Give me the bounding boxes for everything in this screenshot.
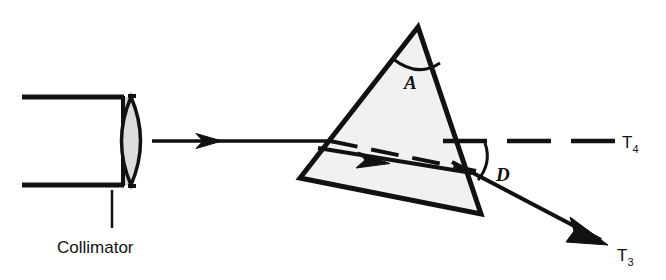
prism-body	[300, 27, 481, 214]
ray-t4-letter: T	[622, 133, 632, 152]
ray-t4-label: T4	[622, 133, 639, 155]
collimator-group: Collimator	[22, 96, 141, 257]
ray-labels-group: T4 T3	[617, 133, 639, 268]
prism-group: A	[300, 27, 481, 214]
emergent-ray-arrowhead	[566, 217, 608, 245]
prism-spectrometer-figure: Collimator A D	[0, 0, 666, 280]
apex-angle-label: A	[403, 72, 417, 93]
deviation-angle-label: D	[495, 164, 510, 185]
ray-t3-letter: T	[617, 246, 627, 265]
ray-t3-label: T3	[617, 246, 634, 268]
collimator-label: Collimator	[57, 238, 134, 257]
diagram-canvas: Collimator A D	[0, 0, 666, 280]
ray-t3-subscript: 3	[627, 256, 633, 268]
collimator-lens-icon	[122, 97, 141, 185]
ray-t4-subscript: 4	[632, 143, 638, 155]
